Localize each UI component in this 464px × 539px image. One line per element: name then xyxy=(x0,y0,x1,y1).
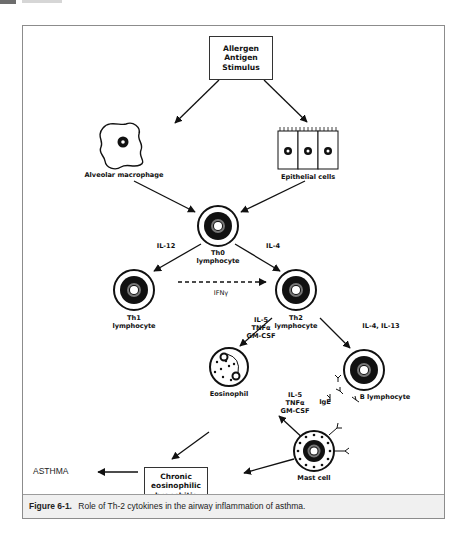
mast-cell-icon xyxy=(294,423,349,471)
eosinophil-icon xyxy=(210,348,248,386)
th0-label: Th0 lymphocyte xyxy=(188,249,248,265)
stimulus-box: Allergen Antigen Stimulus xyxy=(209,36,273,80)
chapter-tab xyxy=(0,0,16,4)
alveolar-macrophage-icon xyxy=(100,123,143,169)
figure-frame: Allergen Antigen Stimulus Alveolar macro… xyxy=(22,25,445,519)
ige-label: IgE xyxy=(315,398,335,406)
figure-caption: Figure 6-1. Role of Th-2 cytokines in th… xyxy=(23,494,444,518)
th1-label-line-2: lymphocyte xyxy=(104,322,164,330)
th1-lymphocyte-icon xyxy=(114,270,154,310)
cytokine-gmcsf: GM-CSF xyxy=(243,332,279,340)
stimulus-line-3: Stimulus xyxy=(222,63,260,73)
stimulus-line-2: Antigen xyxy=(224,53,258,63)
outcome-line-1: Chronic xyxy=(160,472,192,482)
caption-text: Role of Th-2 cytokines in the airway inf… xyxy=(78,501,305,511)
alveolar-macrophage-label: Alveolar macrophage xyxy=(69,171,179,179)
il4-il13-label: IL-4, IL-13 xyxy=(356,322,406,330)
th0-lymphocyte-icon xyxy=(198,206,238,246)
b-lymphocyte-icon xyxy=(344,350,384,390)
b-lymphocyte-label: B lymphocyte xyxy=(350,393,420,401)
mast-cytokine-il5: IL-5 xyxy=(277,391,313,399)
epithelial-cells-icon xyxy=(278,127,338,169)
th1-label: Th1 lymphocyte xyxy=(104,314,164,330)
eosinophil-label: Eosinophil xyxy=(199,390,259,398)
figure-number: Figure 6-1. xyxy=(29,501,72,511)
outcome-line-2: eosinophilic xyxy=(151,481,201,491)
cytokine-tnfa: TNFα xyxy=(243,324,279,332)
page-header-strip xyxy=(0,0,464,4)
th0-label-line-1: Th0 xyxy=(188,249,248,257)
stimulus-line-1: Allergen xyxy=(223,44,259,54)
epithelial-cells-label: Epithelial cells xyxy=(263,173,353,181)
mast-cytokine-tnfa: TNFα xyxy=(277,399,313,407)
running-header xyxy=(22,0,62,3)
cytokine-il5: IL-5 xyxy=(243,316,279,324)
th1-label-line-1: Th1 xyxy=(104,314,164,322)
th0-label-line-2: lymphocyte xyxy=(188,257,248,265)
mast-cytokine-gmcsf: GM-CSF xyxy=(277,407,313,415)
il4-label: IL-4 xyxy=(258,242,288,250)
ifn-gamma-label: IFNγ xyxy=(206,289,236,297)
il12-label: IL-12 xyxy=(151,242,181,250)
mast-eosinophil-cytokines: IL-5 TNFα GM-CSF xyxy=(277,391,313,415)
th2-eosinophil-cytokines: IL-5 TNFα GM-CSF xyxy=(243,316,279,340)
mast-cell-label: Mast cell xyxy=(284,474,344,482)
th2-lymphocyte-icon xyxy=(276,270,316,310)
asthma-label: ASTHMA xyxy=(33,466,68,476)
